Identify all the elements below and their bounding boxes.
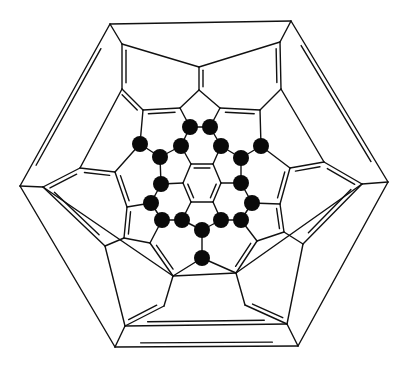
single-bond <box>298 182 388 346</box>
single-bond <box>183 164 191 183</box>
double-bond <box>124 207 127 238</box>
double-bond <box>122 89 143 110</box>
carbon-atom-marker <box>154 212 170 228</box>
carbon-atom-marker <box>132 136 148 152</box>
carbon-atom-marker <box>152 149 168 165</box>
carbon-atom-marker <box>202 119 218 135</box>
highlighted-atoms <box>132 119 269 266</box>
single-bond <box>122 44 199 67</box>
double-bond-inner <box>54 192 99 234</box>
double-bond <box>236 241 257 273</box>
double-bond-inner <box>148 320 265 321</box>
carbon-atom-marker <box>253 138 269 154</box>
double-bond <box>125 324 287 326</box>
single-bond <box>236 273 245 305</box>
single-bond <box>20 186 43 187</box>
double-bond <box>280 204 284 232</box>
double-bond-inner <box>128 212 130 234</box>
carbon-atom-marker <box>194 250 210 266</box>
carbon-atom-marker <box>194 222 210 238</box>
carbon-atom-marker <box>182 119 198 135</box>
single-bond <box>287 324 298 346</box>
single-bond <box>280 21 291 42</box>
single-bond <box>260 89 281 110</box>
single-bond <box>199 90 220 108</box>
double-bond-inner <box>276 49 277 83</box>
carbon-atom-marker <box>143 195 159 211</box>
carbon-atom-marker <box>153 176 169 192</box>
carbon-atom-marker <box>213 212 229 228</box>
single-bond <box>110 21 291 24</box>
double-bond <box>220 108 260 110</box>
double-bond <box>125 306 164 326</box>
double-bond <box>280 42 281 89</box>
double-bond-inner <box>225 112 254 113</box>
single-bond <box>284 232 303 244</box>
double-bond-inner <box>278 172 285 198</box>
fullerene-schlegel-diagram <box>0 0 408 369</box>
single-bond <box>115 326 125 347</box>
single-bond <box>257 232 284 241</box>
single-bond <box>281 89 324 162</box>
double-bond-inner <box>308 190 350 233</box>
double-bond-inner <box>277 208 280 228</box>
carbon-atom-marker <box>233 150 249 166</box>
double-bond-inner <box>295 167 319 171</box>
double-bond-inner <box>301 46 371 162</box>
molecule-graph <box>0 0 408 369</box>
single-bond <box>362 182 388 184</box>
double-bond-inner <box>120 176 129 201</box>
carbon-atom-marker <box>174 212 190 228</box>
double-bond <box>115 346 298 347</box>
double-bond <box>150 243 173 276</box>
carbon-atom-marker <box>173 138 189 154</box>
single-bond <box>287 244 303 324</box>
single-bond <box>173 273 236 276</box>
double-bond <box>245 305 287 324</box>
double-bond <box>143 108 180 110</box>
carbon-atom-marker <box>213 138 229 154</box>
double-bond-inner <box>84 173 109 176</box>
single-bond <box>80 89 122 168</box>
single-bond <box>124 238 150 243</box>
double-bond <box>213 183 221 202</box>
double-bond-inner <box>157 245 174 269</box>
double-bond <box>303 184 362 244</box>
double-bond <box>80 168 115 172</box>
carbon-atom-marker <box>233 175 249 191</box>
carbon-atom-marker <box>244 195 260 211</box>
single-bond <box>180 90 199 108</box>
double-bond <box>43 187 105 246</box>
double-bond-inner <box>327 169 354 185</box>
single-bond <box>110 24 122 44</box>
bond-lines <box>20 21 388 347</box>
double-bond <box>20 24 110 186</box>
double-bond <box>43 168 80 187</box>
double-bond <box>183 183 191 202</box>
double-bond <box>291 21 388 182</box>
carbon-atom-marker <box>233 212 249 228</box>
double-bond <box>324 162 362 184</box>
single-bond <box>105 238 124 246</box>
single-bond <box>199 42 280 67</box>
single-bond <box>164 276 173 306</box>
single-bond <box>213 164 221 183</box>
single-bond <box>105 246 125 326</box>
double-bond-inner <box>148 112 175 113</box>
double-bond-inner <box>141 342 273 343</box>
